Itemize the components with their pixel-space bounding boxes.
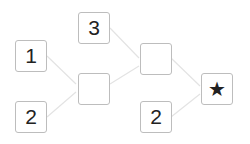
input-box-4: 2 <box>140 101 172 133</box>
input-box-2: 2 <box>15 101 47 133</box>
star-icon: ★ <box>208 77 226 101</box>
input-value: 2 <box>25 105 37 129</box>
blank-box-2[interactable] <box>140 43 172 75</box>
result-box: ★ <box>201 73 233 105</box>
blank-box-1[interactable] <box>78 73 110 105</box>
input-value: 1 <box>25 44 37 68</box>
input-value: 3 <box>88 16 100 40</box>
input-box-3: 3 <box>78 12 110 44</box>
input-box-1: 1 <box>15 40 47 72</box>
input-value: 2 <box>150 105 162 129</box>
